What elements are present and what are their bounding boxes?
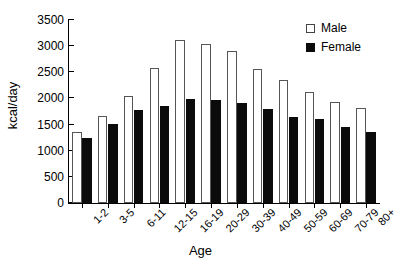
bar-male: [227, 51, 237, 203]
bar-group: [124, 20, 144, 203]
x-axis-tick-mark: [314, 203, 315, 208]
x-axis-tick-mark: [185, 203, 186, 208]
x-axis-tick-label: 20-29: [223, 206, 251, 234]
bar-group: [150, 20, 170, 203]
bar-group: [72, 20, 92, 203]
x-axis-tick-mark: [366, 203, 367, 208]
x-axis-tick-label: 30-39: [249, 206, 277, 234]
chart-legend: Male Female: [306, 20, 361, 58]
x-axis-tick-mark: [289, 203, 290, 208]
bar-female: [341, 127, 351, 203]
bar-group: [279, 20, 299, 203]
bar-group: [175, 20, 195, 203]
bar-male: [98, 116, 108, 203]
x-axis-tick-label: 3-5: [116, 206, 136, 226]
x-axis-title-text: Age: [189, 243, 212, 258]
x-axis-tick-label: 16-19: [197, 206, 225, 234]
x-axis-tick-label: 50-59: [301, 206, 329, 234]
bar-female: [108, 124, 118, 203]
x-axis-line: [68, 203, 380, 204]
bar-female: [186, 99, 196, 203]
bar-female: [289, 117, 299, 203]
x-axis-tick-label: 40-49: [275, 206, 303, 234]
bar-female: [366, 132, 376, 203]
bar-female: [237, 103, 247, 203]
bar-male: [124, 96, 134, 203]
x-axis-tick-label: 60-69: [327, 206, 355, 234]
bar-female: [134, 110, 144, 203]
x-axis-tick-label: 80+: [376, 206, 398, 228]
x-axis-tick-mark: [82, 203, 83, 208]
bar-female: [160, 106, 170, 203]
y-axis-tick-label: 2000: [0, 90, 64, 106]
bar-male: [253, 69, 263, 203]
x-axis-title: Age: [0, 243, 401, 258]
x-axis-tick-mark: [134, 203, 135, 208]
bar-female: [211, 100, 221, 203]
x-axis-tick-mark: [108, 203, 109, 208]
x-axis-tick-mark: [340, 203, 341, 208]
x-axis-tick-label: 12-15: [172, 206, 200, 234]
bar-male: [356, 108, 366, 203]
bar-female: [315, 119, 325, 203]
bar-male: [150, 68, 160, 203]
y-axis-tick-label: 0: [0, 195, 64, 211]
bar-chart: kcal/day 0500100015002000250030003500 1-…: [0, 0, 401, 266]
bar-female: [263, 109, 273, 203]
x-axis-tick-label: 1-2: [91, 206, 111, 226]
bar-male: [72, 132, 82, 203]
bar-male: [330, 102, 340, 203]
bar-male: [305, 92, 315, 203]
bar-male: [279, 80, 289, 203]
bar-group: [98, 20, 118, 203]
bar-male: [175, 40, 185, 203]
bar-group: [253, 20, 273, 203]
bar-group: [227, 20, 247, 203]
x-axis-tick-mark: [211, 203, 212, 208]
bar-female: [82, 138, 92, 203]
y-axis-tick-label: 3000: [0, 38, 64, 54]
y-axis-tick-label: 500: [0, 169, 64, 185]
x-axis-tick-mark: [237, 203, 238, 208]
x-axis-tick-mark: [159, 203, 160, 208]
x-axis-tick-label: 6-11: [144, 206, 167, 229]
y-axis-tick-label: 1500: [0, 117, 64, 133]
legend-item-female: Female: [306, 39, 361, 55]
bar-group: [201, 20, 221, 203]
legend-swatch-male-icon: [306, 24, 315, 33]
x-axis-tick-mark: [263, 203, 264, 208]
legend-label-male: Male: [321, 21, 347, 35]
legend-item-male: Male: [306, 20, 361, 36]
bar-male: [201, 44, 211, 203]
legend-label-female: Female: [321, 40, 361, 54]
legend-swatch-female-icon: [306, 43, 315, 52]
y-axis-tick-label: 1000: [0, 143, 64, 159]
y-axis-tick-label: 2500: [0, 64, 64, 80]
y-axis-tick-label: 3500: [0, 12, 64, 28]
